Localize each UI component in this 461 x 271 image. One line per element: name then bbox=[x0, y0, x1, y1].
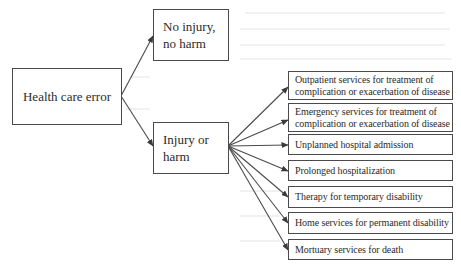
node-label: No injury, no harm bbox=[163, 18, 216, 52]
node-outcome-prolonged-hospitalization: Prolonged hospitalization bbox=[288, 160, 453, 181]
node-label: Outpatient services for treatment of com… bbox=[295, 74, 450, 98]
node-label: Unplanned hospital admission bbox=[295, 139, 413, 151]
node-label: Therapy for temporary disability bbox=[295, 191, 423, 203]
arrow-to-outcome-2 bbox=[228, 120, 288, 146]
arrow-to-outcome-1 bbox=[228, 87, 288, 146]
arrow-to-outcome-3 bbox=[228, 145, 288, 146]
arrow-to-outcome-4 bbox=[228, 146, 288, 171]
node-outcome-unplanned-admission: Unplanned hospital admission bbox=[288, 134, 453, 155]
node-label: Injury or harm bbox=[163, 131, 209, 165]
node-label: Prolonged hospitalization bbox=[295, 165, 395, 177]
node-outcome-outpatient: Outpatient services for treatment of com… bbox=[288, 71, 453, 100]
node-label: Health care error bbox=[23, 89, 111, 105]
node-label: Home services for permanent disability bbox=[295, 217, 449, 229]
node-no-injury: No injury, no harm bbox=[153, 9, 229, 61]
node-outcome-emergency: Emergency services for treatment of comp… bbox=[288, 103, 453, 132]
arrow-to-no-injury bbox=[121, 36, 153, 96]
node-label: Mortuary services for death bbox=[295, 244, 403, 256]
node-outcome-therapy: Therapy for temporary disability bbox=[288, 186, 453, 208]
node-health-care-error: Health care error bbox=[12, 68, 122, 125]
node-label: Emergency services for treatment of comp… bbox=[295, 106, 450, 130]
arrow-to-outcome-7 bbox=[228, 146, 288, 250]
arrow-to-injury bbox=[121, 96, 153, 146]
arrow-to-outcome-6 bbox=[228, 146, 288, 223]
node-injury-or-harm: Injury or harm bbox=[153, 122, 229, 174]
node-outcome-home-services: Home services for permanent disability bbox=[288, 212, 453, 234]
node-outcome-mortuary: Mortuary services for death bbox=[288, 239, 453, 260]
arrow-to-outcome-5 bbox=[228, 146, 288, 197]
